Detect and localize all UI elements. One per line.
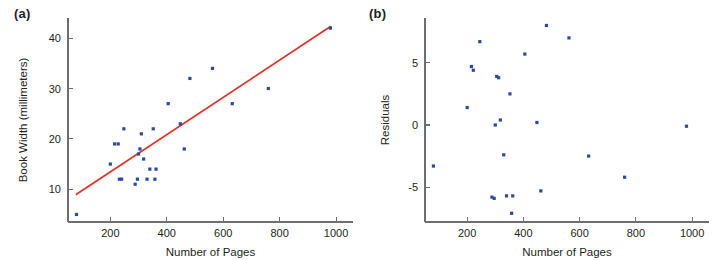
data-point [493, 197, 496, 200]
panel-b-label: (b) [369, 6, 386, 21]
data-point-group [432, 24, 688, 215]
data-point [508, 92, 511, 95]
panel-a-scatter: (a) 200400600800100010203040Number of Pa… [0, 0, 355, 260]
data-point [511, 194, 514, 197]
data-point [140, 132, 143, 135]
data-point [137, 152, 140, 155]
data-point [497, 76, 500, 79]
data-point [499, 118, 502, 121]
y-axis-title: Book Width (millimeters) [17, 58, 29, 183]
data-point [75, 213, 78, 216]
data-point [545, 24, 548, 27]
x-tick-label: 400 [514, 227, 532, 239]
data-point [567, 36, 570, 39]
data-point [145, 178, 148, 181]
data-point [153, 178, 156, 181]
data-point [587, 154, 590, 157]
x-tick-label: 400 [158, 227, 176, 239]
data-point [267, 87, 270, 90]
x-tick-label: 800 [627, 227, 645, 239]
y-tick-label: 10 [49, 183, 61, 195]
data-point [136, 178, 139, 181]
data-point [188, 77, 191, 80]
data-point [472, 69, 475, 72]
data-point [211, 67, 214, 70]
data-point [539, 189, 542, 192]
data-point [510, 212, 513, 215]
data-point [466, 106, 469, 109]
data-point [478, 40, 481, 43]
data-point [535, 121, 538, 124]
y-tick-label: 0 [412, 119, 418, 131]
x-tick-label: 200 [458, 227, 476, 239]
panel-a-plot: 200400600800100010203040Number of PagesB… [0, 0, 355, 260]
data-point [505, 194, 508, 197]
data-point [120, 178, 123, 181]
y-tick-label: 30 [49, 83, 61, 95]
data-point [167, 102, 170, 105]
y-tick-label: -5 [408, 181, 418, 193]
data-point [138, 147, 141, 150]
y-axis-title: Residuals [379, 95, 391, 146]
y-tick-label: 5 [412, 57, 418, 69]
data-point [523, 52, 526, 55]
data-point [154, 168, 157, 171]
x-tick-label: 1000 [324, 227, 348, 239]
data-point [470, 65, 473, 68]
data-point [152, 127, 155, 130]
x-axis-title: Number of Pages [166, 246, 256, 258]
figure-container: (a) 200400600800100010203040Number of Pa… [0, 0, 713, 260]
panel-a-label: (a) [14, 6, 31, 21]
data-point [113, 142, 116, 145]
data-point [148, 168, 151, 171]
data-point [117, 142, 120, 145]
x-tick-label: 1000 [680, 227, 704, 239]
data-point [231, 102, 234, 105]
panel-b-plot: 200400600800100050-5Number of PagesResid… [355, 0, 713, 260]
data-point [179, 122, 182, 125]
data-point [183, 147, 186, 150]
data-point [109, 162, 112, 165]
data-point [134, 183, 137, 186]
x-tick-label: 600 [570, 227, 588, 239]
data-point [122, 127, 125, 130]
data-point [432, 164, 435, 167]
y-tick-label: 40 [49, 32, 61, 44]
x-tick-label: 800 [270, 227, 288, 239]
data-point [142, 157, 145, 160]
x-tick-label: 600 [214, 227, 232, 239]
data-point [502, 153, 505, 156]
data-point [494, 123, 497, 126]
y-tick-label: 20 [49, 133, 61, 145]
data-point [329, 26, 332, 29]
x-tick-label: 200 [101, 227, 119, 239]
x-axis-title: Number of Pages [522, 246, 612, 258]
data-point-group [75, 26, 332, 216]
data-point [623, 176, 626, 179]
panel-b-residuals: (b) 200400600800100050-5Number of PagesR… [355, 0, 713, 260]
data-point [685, 125, 688, 128]
regression-line [76, 27, 330, 195]
